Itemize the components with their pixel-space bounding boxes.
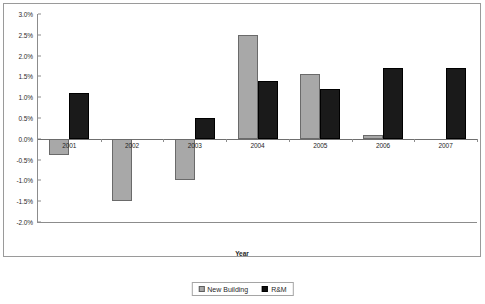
bar-rm-2004: [258, 81, 278, 139]
y-axis-tick-label: -1.5%: [17, 198, 38, 205]
y-axis-tick-mark: [38, 76, 41, 77]
legend-entry: R&M: [262, 286, 287, 293]
x-axis-category-label: 2004: [226, 142, 289, 149]
y-axis-tick-label: 3.0%: [19, 11, 38, 18]
x-axis-category-label: 2005: [289, 142, 352, 149]
bar-new-building-2004: [238, 35, 258, 139]
chart-legend: New BuildingR&M: [191, 282, 293, 296]
y-axis-tick-label: -2.0%: [17, 219, 38, 226]
legend-entry: New Building: [198, 286, 248, 293]
y-axis-tick-mark: [38, 201, 41, 202]
x-axis-title: Year: [4, 250, 480, 257]
x-axis-tick-mark: [477, 139, 478, 142]
bar-new-building-2006: [363, 135, 383, 139]
chart-screenshot: { "chart_data": { "type": "bar", "title"…: [0, 0, 485, 304]
y-axis-tick-mark: [38, 55, 41, 56]
bar-rm-2003: [195, 118, 215, 139]
x-axis-category-label: 2006: [352, 142, 415, 149]
chart-frame: 3.0%2.5%2.0%1.5%1.0%0.5%0.0%-0.5%-1.0%-1…: [3, 3, 481, 257]
bar-rm-2006: [383, 68, 403, 139]
y-axis-tick-label: 2.5%: [19, 31, 38, 38]
y-axis-tick-label: 1.5%: [19, 73, 38, 80]
plot-area: 3.0%2.5%2.0%1.5%1.0%0.5%0.0%-0.5%-1.0%-1…: [37, 14, 477, 223]
y-axis-tick-label: 0.5%: [19, 115, 38, 122]
y-axis-tick-label: 2.0%: [19, 52, 38, 59]
zero-baseline: [38, 139, 477, 140]
legend-swatch-newbuilding: [198, 286, 204, 292]
y-axis-tick-mark: [38, 14, 41, 15]
x-axis-category-label: 2007: [414, 142, 477, 149]
y-axis-tick-mark: [38, 34, 41, 35]
legend-label: New Building: [207, 286, 248, 293]
legend-label: R&M: [271, 286, 287, 293]
x-axis-category-label: 2002: [101, 142, 164, 149]
bar-rm-2007: [446, 68, 466, 139]
y-axis-tick-mark: [38, 222, 41, 223]
x-axis-category-label: 2001: [38, 142, 101, 149]
y-axis-tick-mark: [38, 97, 41, 98]
bar-rm-2005: [320, 89, 340, 139]
y-axis-tick-mark: [38, 118, 41, 119]
y-axis-tick-mark: [38, 159, 41, 160]
y-axis-tick-label: -0.5%: [17, 156, 38, 163]
legend-swatch-rm: [262, 286, 268, 292]
y-axis-tick-label: 0.0%: [19, 135, 38, 142]
bar-new-building-2005: [300, 74, 320, 138]
x-axis-category-label: 2003: [163, 142, 226, 149]
y-axis-tick-label: 1.0%: [19, 94, 38, 101]
y-axis-tick-label: -1.0%: [17, 177, 38, 184]
y-axis-tick-mark: [38, 180, 41, 181]
bar-rm-2001: [69, 93, 89, 139]
